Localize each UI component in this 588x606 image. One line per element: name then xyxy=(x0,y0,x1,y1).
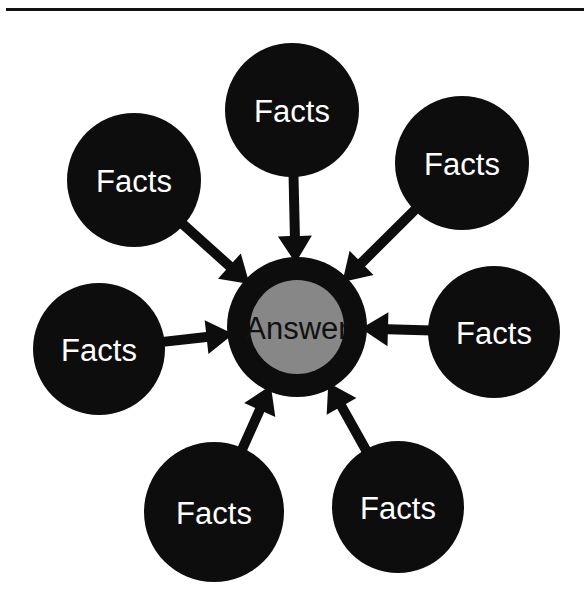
node-bottom-left-label: Facts xyxy=(176,496,252,531)
node-top-label: Facts xyxy=(254,94,330,129)
facts-to-answer-diagram: FactsFactsFactsFactsFactsFactsFacts Answ… xyxy=(0,0,588,606)
node-top-right[interactable]: Facts xyxy=(395,96,529,230)
node-right-label: Facts xyxy=(456,316,532,351)
arrow-from-bottom-right xyxy=(327,383,372,456)
node-bottom-right-label: Facts xyxy=(360,491,436,526)
arrow-from-right xyxy=(361,312,432,346)
node-right[interactable]: Facts xyxy=(428,266,560,398)
node-bottom-left[interactable]: Facts xyxy=(144,442,284,582)
node-left-label: Facts xyxy=(61,333,137,368)
arrow-from-bottom-left xyxy=(237,385,276,453)
node-top-left-label: Facts xyxy=(96,164,172,199)
hub-answer-node[interactable]: Answer xyxy=(227,257,367,397)
hub-label: Answer xyxy=(245,311,348,346)
node-top-left[interactable]: Facts xyxy=(67,113,201,247)
diagram-page: FactsFactsFactsFactsFactsFactsFacts Answ… xyxy=(0,0,588,606)
arrow-from-top-right xyxy=(342,204,420,282)
arrow-from-top xyxy=(278,173,312,263)
node-left[interactable]: Facts xyxy=(33,283,165,415)
node-top[interactable]: Facts xyxy=(225,43,359,177)
arrow-from-top-left xyxy=(177,219,249,285)
node-top-right-label: Facts xyxy=(424,147,500,182)
node-bottom-right[interactable]: Facts xyxy=(332,441,464,573)
arrow-from-left xyxy=(160,320,233,354)
